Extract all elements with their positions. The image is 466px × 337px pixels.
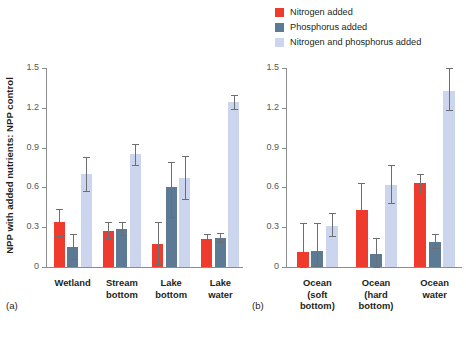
error-bar xyxy=(449,68,450,110)
y-axis-tick xyxy=(282,267,286,268)
bar xyxy=(228,102,239,267)
error-bar-cap xyxy=(231,109,238,110)
error-bar xyxy=(317,223,318,265)
error-bar-cap xyxy=(300,267,307,268)
error-bar xyxy=(234,95,235,110)
y-axis-title: NPP with added nutrients: NPP control xyxy=(4,61,15,271)
y-axis-tick xyxy=(42,148,46,149)
y-axis-line xyxy=(286,68,287,268)
error-bar xyxy=(185,156,186,200)
error-bar xyxy=(332,213,333,237)
error-bar-cap xyxy=(388,165,395,166)
y-axis-tick-label: 0 xyxy=(252,261,279,271)
error-bar-cap xyxy=(182,199,189,200)
y-axis-tick xyxy=(282,68,286,69)
x-axis-group-label: Lakewater xyxy=(180,277,260,300)
error-bar-cap xyxy=(417,174,424,175)
x-axis-group-label: Oceanwater xyxy=(395,277,466,300)
y-axis-tick-label: 1.2 xyxy=(12,102,39,112)
error-bar-cap xyxy=(446,68,453,69)
error-bar-cap xyxy=(168,217,175,218)
y-axis-tick xyxy=(282,148,286,149)
error-bar-cap xyxy=(204,243,211,244)
chart-panel-b: 00.30.60.91.21.5Ocean(softbottom)Ocean(h… xyxy=(250,0,466,337)
error-bar-cap xyxy=(105,222,112,223)
error-bar-cap xyxy=(432,234,439,235)
error-bar-cap xyxy=(119,235,126,236)
panel-tag-a: (a) xyxy=(6,300,18,311)
y-axis-tick xyxy=(42,68,46,69)
error-bar-cap xyxy=(446,110,453,111)
error-bar-cap xyxy=(155,264,162,265)
error-bar-cap xyxy=(119,222,126,223)
error-bar xyxy=(86,157,87,191)
error-bar-cap xyxy=(417,193,424,194)
y-axis-tick-label: 0.9 xyxy=(252,142,279,152)
error-bar xyxy=(108,222,109,238)
bar xyxy=(130,154,141,267)
x-axis-line xyxy=(46,267,243,268)
y-axis-tick-label: 0.9 xyxy=(12,142,39,152)
error-bar-cap xyxy=(204,234,211,235)
error-bar xyxy=(158,222,159,264)
error-bar-cap xyxy=(300,223,307,224)
error-bar-cap xyxy=(314,266,321,267)
chart-panel-a: NPP with added nutrients: NPP control 00… xyxy=(0,0,250,337)
error-bar xyxy=(207,234,208,243)
error-bar-cap xyxy=(83,191,90,192)
y-axis-tick xyxy=(282,227,286,228)
y-axis-tick-label: 0.3 xyxy=(12,221,39,231)
error-bar-cap xyxy=(132,165,139,166)
y-axis-tick-label: 0 xyxy=(12,261,39,271)
error-bar xyxy=(135,144,136,165)
error-bar-cap xyxy=(358,235,365,236)
error-bar-cap xyxy=(373,238,380,239)
y-axis-tick-label: 1.2 xyxy=(252,102,279,112)
error-bar xyxy=(391,165,392,203)
error-bar-cap xyxy=(314,223,321,224)
error-bar xyxy=(122,222,123,235)
error-bar-cap xyxy=(56,236,63,237)
error-bar xyxy=(376,238,377,267)
error-bar-cap xyxy=(132,144,139,145)
error-bar-cap xyxy=(231,95,238,96)
y-axis-tick xyxy=(282,187,286,188)
y-axis-tick xyxy=(282,108,286,109)
y-axis-tick xyxy=(42,187,46,188)
error-bar-cap xyxy=(388,203,395,204)
y-axis-tick-label: 1.5 xyxy=(252,62,279,72)
error-bar-cap xyxy=(432,248,439,249)
panel-tag-b: (b) xyxy=(252,300,264,311)
error-bar-cap xyxy=(358,183,365,184)
y-axis-tick xyxy=(42,267,46,268)
error-bar xyxy=(420,174,421,193)
error-bar-cap xyxy=(373,267,380,268)
y-axis-tick xyxy=(42,227,46,228)
error-bar xyxy=(303,223,304,267)
bar xyxy=(443,91,455,267)
bar xyxy=(414,183,426,267)
error-bar-cap xyxy=(70,259,77,260)
error-bar-cap xyxy=(217,242,224,243)
error-bar-cap xyxy=(329,236,336,237)
y-axis-tick-label: 0.6 xyxy=(252,181,279,191)
error-bar xyxy=(73,234,74,259)
error-bar-cap xyxy=(83,157,90,158)
error-bar-cap xyxy=(70,234,77,235)
error-bar xyxy=(361,183,362,235)
error-bar-cap xyxy=(329,213,336,214)
error-bar xyxy=(435,234,436,249)
y-axis-tick xyxy=(42,108,46,109)
error-bar-cap xyxy=(168,162,175,163)
error-bar-cap xyxy=(182,156,189,157)
y-axis-line xyxy=(46,68,47,268)
error-bar-cap xyxy=(155,222,162,223)
error-bar-cap xyxy=(217,233,224,234)
error-bar xyxy=(171,162,172,216)
error-bar xyxy=(59,209,60,237)
y-axis-tick-label: 1.5 xyxy=(12,62,39,72)
y-axis-tick-label: 0.6 xyxy=(12,181,39,191)
error-bar-cap xyxy=(105,238,112,239)
y-axis-tick-label: 0.3 xyxy=(252,221,279,231)
error-bar-cap xyxy=(56,209,63,210)
